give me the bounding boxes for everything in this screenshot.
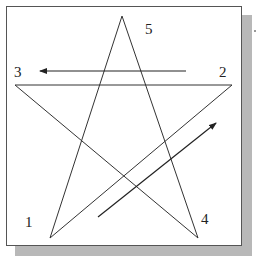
edge-5-to-4 [122,16,198,238]
stray-mark [254,30,256,32]
edge-1-to-5 [50,16,122,238]
pentagram-diagram [0,0,257,256]
vertex-label-2: 2 [219,65,227,80]
vertex-label-4: 4 [201,212,209,227]
arrow-1-to-2-icon [98,123,216,217]
vertex-label-1: 1 [25,215,33,230]
vertex-label-3: 3 [14,65,22,80]
edge-4-to-3 [15,85,198,238]
vertex-label-5: 5 [145,22,153,37]
pentagram-star [15,16,232,238]
